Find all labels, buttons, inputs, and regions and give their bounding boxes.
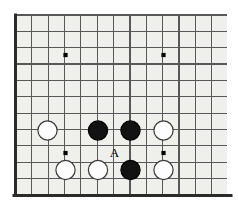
black-stone-3[interactable]	[121, 160, 140, 179]
black-stone-2[interactable]	[121, 121, 140, 140]
white-stone-2[interactable]	[154, 121, 173, 140]
white-stone-5[interactable]	[154, 160, 173, 179]
white-stone-4[interactable]	[88, 160, 107, 179]
go-board-canvas	[0, 0, 238, 214]
go-diagram-figure: A	[0, 0, 238, 214]
black-stone-1[interactable]	[88, 121, 107, 140]
white-stone-1[interactable]	[38, 121, 57, 140]
white-stone-3[interactable]	[56, 160, 75, 179]
point-label-a: A	[110, 145, 119, 158]
go-board: A	[0, 0, 238, 214]
star-point-lower-left-icon	[63, 151, 67, 155]
star-point-upper-right-icon	[161, 53, 165, 57]
star-point-upper-left-icon	[63, 53, 67, 57]
star-point-lower-right-icon	[161, 151, 165, 155]
